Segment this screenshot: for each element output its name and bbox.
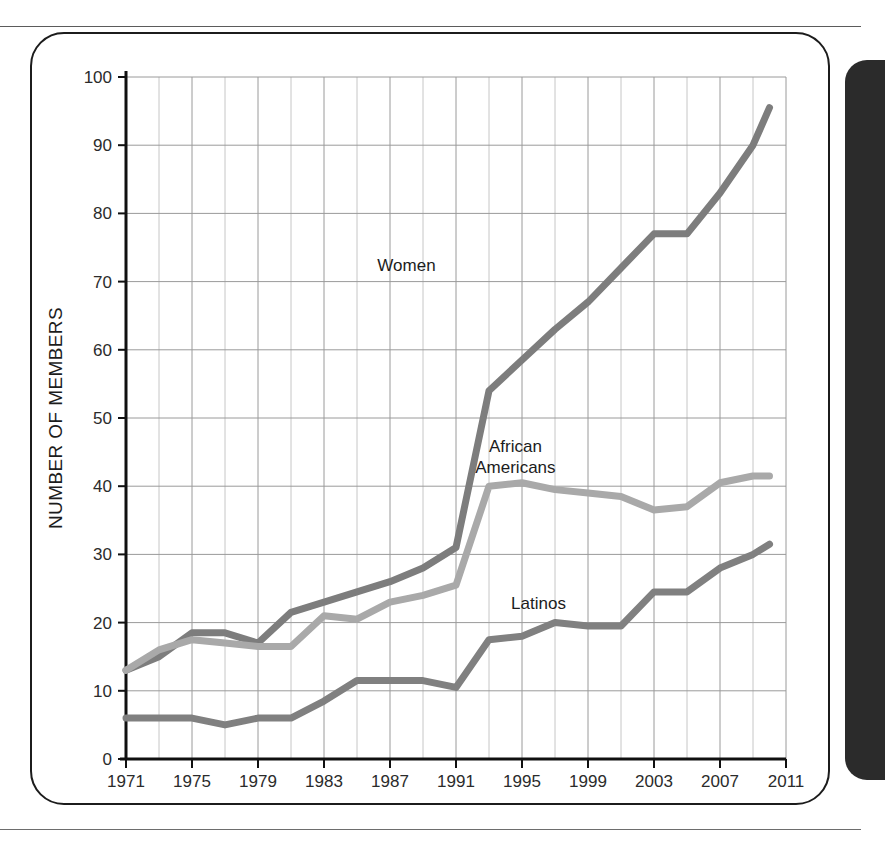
series-line [126, 476, 770, 670]
x-axis-tick-label: 2003 [635, 772, 673, 791]
y-axis-tick-label: 70 [93, 273, 112, 292]
x-axis-tick-label: 1987 [371, 772, 409, 791]
series-label-women: Women [377, 256, 435, 275]
x-axis-tick-label: 1995 [503, 772, 541, 791]
series-label-african-americans: AfricanAmericans [475, 437, 555, 477]
y-axis-tick-label: 20 [93, 614, 112, 633]
y-axis-tick-label: 30 [93, 545, 112, 564]
x-axis-tick-label: 1999 [569, 772, 607, 791]
x-axis-tick-label: 1991 [437, 772, 475, 791]
y-axis-tick-label: 0 [103, 750, 112, 769]
grid-layer [126, 77, 786, 759]
y-axis-tick-label: 50 [93, 409, 112, 428]
axis-title-layer: NUMBER OF MEMBERS [45, 307, 66, 529]
axis-layer [118, 71, 786, 768]
y-axis-tick-label: 10 [93, 682, 112, 701]
y-axis-tick-label: 90 [93, 136, 112, 155]
x-axis-tick-label: 1971 [107, 772, 145, 791]
x-axis-tick-label: 1983 [305, 772, 343, 791]
x-axis-tick-label: 2011 [768, 772, 805, 791]
y-axis-tick-label: 100 [84, 68, 112, 87]
y-axis-title: NUMBER OF MEMBERS [45, 307, 66, 529]
y-axis-tick-label: 60 [93, 341, 112, 360]
y-axis-tick-label: 40 [93, 477, 112, 496]
x-axis-tick-label: 2007 [701, 772, 739, 791]
y-axis-tick-label: 80 [93, 204, 112, 223]
series-label-layer: WomenAfricanAmericansLatinos [377, 256, 566, 613]
series-layer [126, 108, 770, 725]
x-axis-tick-label: 1979 [239, 772, 277, 791]
x-axis-tick-label: 1975 [173, 772, 211, 791]
series-label-latinos: Latinos [511, 594, 566, 613]
